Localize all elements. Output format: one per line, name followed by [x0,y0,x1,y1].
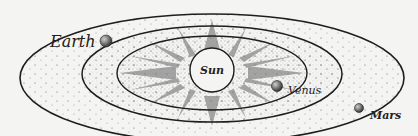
venus-planet [272,81,283,92]
mars-planet [355,104,364,113]
venus-label: Venus [288,84,322,97]
mars-label: Mars [369,109,401,122]
earth-label: Earth [49,32,96,51]
earth-planet [100,35,112,47]
solar-system-diagram: Sun Earth Venus Mars [0,0,418,136]
sun-label: Sun [200,64,224,77]
